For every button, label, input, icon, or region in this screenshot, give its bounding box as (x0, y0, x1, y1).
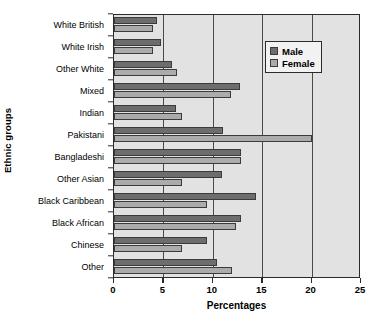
bar-male-white-british (114, 17, 157, 25)
x-tick-label-10: 10 (207, 284, 218, 295)
bar-male-indian (114, 105, 176, 113)
category-label-chinese: Chinese (71, 240, 104, 250)
category-label-other: Other (81, 262, 104, 272)
bar-female-other-white (114, 69, 177, 77)
bar-female-pakistani (114, 135, 312, 143)
legend-item-female: Female (270, 57, 315, 69)
plot-area (113, 14, 360, 278)
bar-female-bangladeshi (114, 157, 241, 165)
y-axis-title-text: Ethnic groups (3, 107, 14, 172)
x-tick-20 (311, 278, 312, 283)
category-label-pakistani: Pakistani (67, 130, 104, 140)
bar-male-pakistani (114, 127, 223, 135)
bar-male-mixed (114, 83, 240, 91)
x-tick-15 (261, 278, 262, 283)
legend-item-male: Male (270, 45, 315, 57)
bar-male-other-white (114, 61, 172, 69)
x-tick-label-15: 15 (256, 284, 267, 295)
category-label-black-caribbean: Black Caribbean (38, 196, 104, 206)
bar-female-mixed (114, 91, 231, 99)
bar-male-chinese (114, 237, 207, 245)
x-axis-title: Percentages (113, 300, 360, 311)
x-tick-label-20: 20 (305, 284, 316, 295)
legend: MaleFemale (265, 41, 322, 73)
category-label-bangladeshi: Bangladeshi (54, 152, 104, 162)
category-label-indian: Indian (79, 108, 104, 118)
bar-male-black-african (114, 215, 241, 223)
bar-female-other-asian (114, 179, 182, 187)
bar-male-white-irish (114, 39, 161, 47)
bar-female-other (114, 267, 232, 275)
category-label-black-african: Black African (52, 218, 104, 228)
x-tick-10 (212, 278, 213, 283)
y-axis-title: Ethnic groups (0, 0, 16, 280)
gridline-15 (262, 15, 263, 277)
bar-male-bangladeshi (114, 149, 241, 157)
bar-female-white-irish (114, 47, 153, 55)
x-axis-tick-labels: 0510152025 (0, 284, 378, 298)
bar-female-black-caribbean (114, 201, 207, 209)
legend-swatch-male-icon (270, 47, 278, 55)
bar-female-black-african (114, 223, 236, 231)
legend-label-male: Male (282, 46, 303, 57)
x-tick-label-5: 5 (160, 284, 165, 295)
bar-chart: Ethnic groups White BritishWhite IrishOt… (0, 0, 378, 325)
category-label-other-white: Other White (56, 64, 104, 74)
bar-male-black-caribbean (114, 193, 256, 201)
bar-female-indian (114, 113, 182, 121)
x-tick-label-0: 0 (110, 284, 115, 295)
category-label-mixed: Mixed (80, 86, 104, 96)
x-tick-5 (162, 278, 163, 283)
x-tick-25 (360, 278, 361, 283)
x-tick-label-25: 25 (355, 284, 366, 295)
category-label-white-irish: White Irish (61, 42, 104, 52)
bar-male-other-asian (114, 171, 222, 179)
legend-label-female: Female (282, 58, 315, 69)
legend-swatch-female-icon (270, 59, 278, 67)
category-axis-labels: White BritishWhite IrishOther WhiteMixed… (16, 14, 108, 278)
category-label-other-asian: Other Asian (57, 174, 104, 184)
bar-male-other (114, 259, 217, 267)
bar-female-chinese (114, 245, 182, 253)
category-label-white-british: White British (53, 20, 104, 30)
gridline-10 (213, 15, 214, 277)
x-tick-0 (113, 278, 114, 283)
bar-female-white-british (114, 25, 153, 33)
